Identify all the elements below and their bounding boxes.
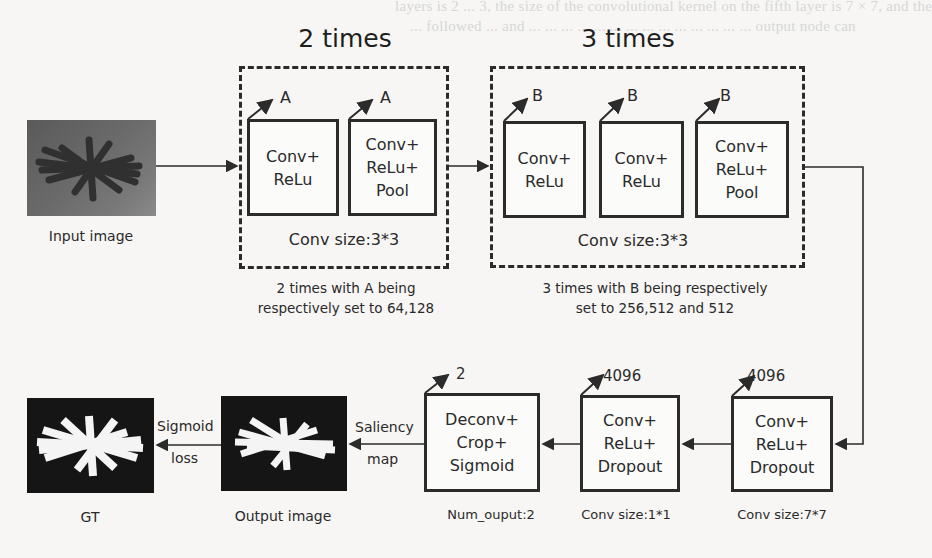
param-label-b: B	[720, 86, 731, 105]
block-line: ReLu+	[750, 433, 815, 456]
saliency-map-label: map	[367, 451, 398, 467]
group-b-title: 3 times	[581, 24, 674, 53]
block-line: Conv+	[266, 145, 320, 168]
ground-truth-image	[27, 398, 154, 493]
block-line: Conv+	[715, 135, 769, 158]
block-line: Deconv+	[445, 408, 519, 431]
block-line: Conv+	[366, 133, 420, 156]
saliency-mask-icon	[221, 396, 347, 491]
param-label-b: B	[532, 86, 543, 105]
block-line: Sigmoid	[445, 454, 519, 477]
ground-truth-mask-icon	[27, 398, 154, 493]
caption-line: set to 256,512 and 512	[542, 298, 767, 318]
block-line: ReLu+	[366, 156, 420, 179]
saliency-map-label: Saliency	[355, 419, 414, 435]
group-b-conv-relu-block-2: Conv+ ReLu	[599, 121, 684, 218]
caption-line: 2 times with A being	[258, 278, 434, 298]
sigmoid-loss-label: loss	[171, 450, 198, 466]
deconv-crop-sigmoid-block: Deconv+ Crop+ Sigmoid	[424, 393, 540, 492]
sigmoid-loss-label: Sigmoid	[157, 418, 214, 434]
param-label-b: B	[627, 86, 638, 105]
fc6-output-count: 4096	[747, 367, 785, 385]
background-text-line: layers is 2 ... 3, the size of the convo…	[395, 0, 932, 15]
block-line: Conv+	[615, 147, 669, 170]
fc7-conv-relu-dropout-block: Conv+ ReLu+ Dropout	[580, 395, 680, 492]
group-a-caption: 2 times with A being respectively set to…	[258, 278, 434, 318]
block-line: Dropout	[750, 456, 815, 479]
caption-line: respectively set to 64,128	[258, 298, 434, 318]
block-line: Pool	[366, 179, 420, 202]
block-line: Dropout	[598, 455, 663, 478]
block-line: Conv+	[750, 410, 815, 433]
input-image-label: Input image	[49, 226, 133, 246]
caption-line: 3 times with B being respectively	[542, 278, 767, 298]
param-label-a: A	[280, 88, 291, 107]
block-line: ReLu	[266, 168, 320, 191]
block-line: Conv+	[598, 409, 663, 432]
block-line: Conv+	[518, 147, 572, 170]
deconv-num-output: Num_ouput:2	[447, 505, 535, 525]
param-label-a: A	[380, 88, 391, 107]
block-line: ReLu+	[715, 158, 769, 181]
block-line: Crop+	[445, 431, 519, 454]
deconv-output-count: 2	[456, 365, 466, 383]
fc6-conv-relu-dropout-block: Conv+ ReLu+ Dropout	[731, 396, 833, 492]
input-image	[27, 120, 156, 216]
fc7-conv-size: Conv size:1*1	[581, 505, 671, 525]
group-b-conv-relu-block-1: Conv+ ReLu	[503, 121, 586, 218]
block-line: Pool	[715, 181, 769, 204]
group-a-title: 2 times	[298, 24, 391, 53]
block-line: ReLu	[615, 170, 669, 193]
group-a-conv-relu-block: Conv+ ReLu	[247, 119, 339, 216]
group-b-caption: 3 times with B being respectively set to…	[542, 278, 767, 318]
block-line: ReLu+	[598, 432, 663, 455]
output-image	[221, 396, 347, 491]
group-a-conv-relu-pool-block: Conv+ ReLu+ Pool	[348, 119, 437, 216]
gt-image-label: GT	[81, 507, 100, 527]
ray-cluster-icon	[27, 120, 156, 216]
group-b-conv-relu-pool-block: Conv+ ReLu+ Pool	[695, 121, 789, 218]
group-b-conv-size: Conv size:3*3	[578, 231, 688, 251]
fc7-output-count: 4096	[603, 367, 641, 385]
output-image-label: Output image	[235, 506, 332, 526]
group-a-conv-size: Conv size:3*3	[289, 230, 399, 250]
block-line: ReLu	[518, 170, 572, 193]
fc6-conv-size: Conv size:7*7	[737, 505, 827, 525]
